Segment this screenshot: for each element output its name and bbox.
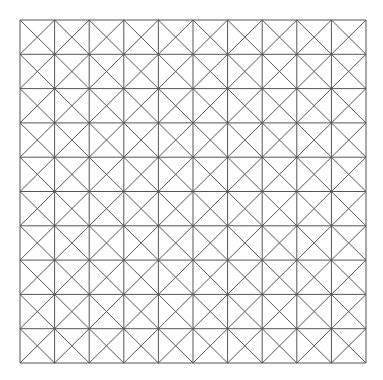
triangulated-grid-diagram bbox=[0, 0, 383, 380]
